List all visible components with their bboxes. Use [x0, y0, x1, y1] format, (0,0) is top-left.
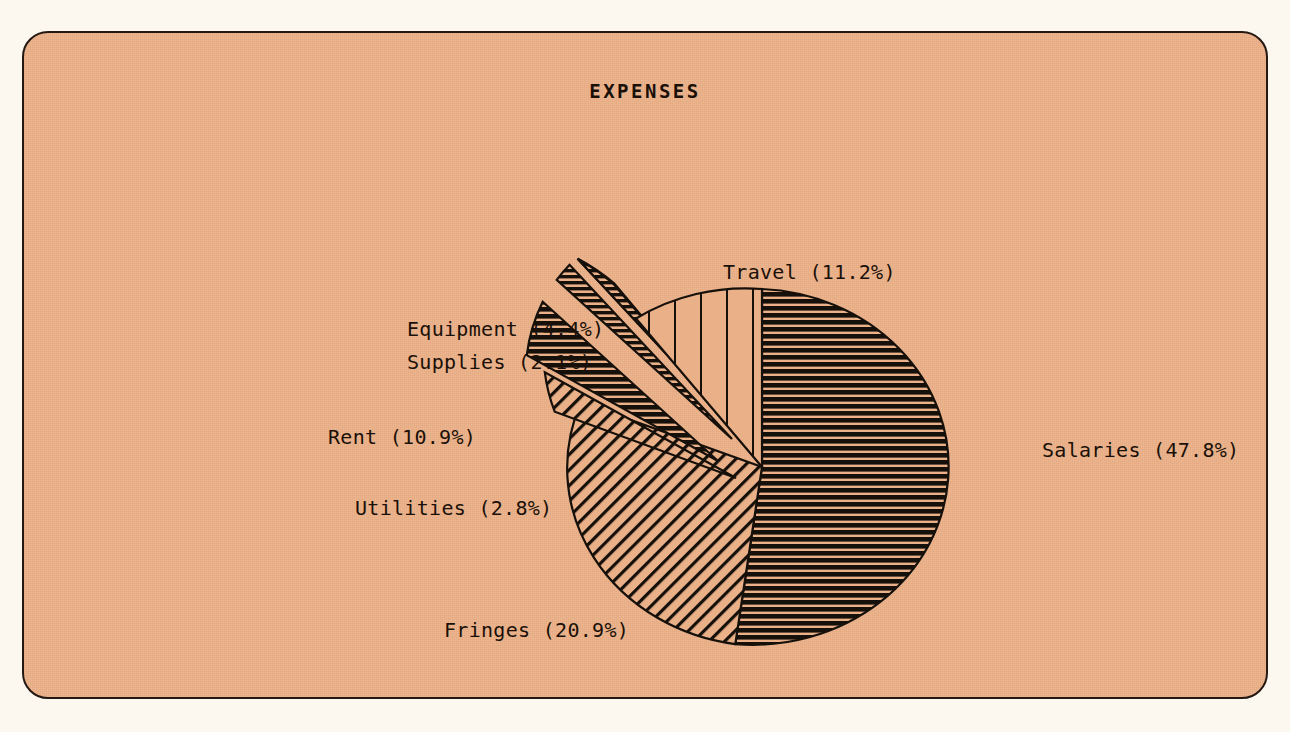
chart-page: EXPENSES: [0, 0, 1290, 732]
pie-label-rent: Rent (10.9%): [328, 425, 476, 449]
pie-label-travel: Travel (11.2%): [723, 260, 896, 284]
pie-chart: [24, 33, 1268, 699]
pie-label-fringes: Fringes (20.9%): [444, 618, 629, 642]
pie-label-supplies: Supplies (2.1%): [407, 350, 592, 374]
pie-label-utilities: Utilities (2.8%): [355, 496, 552, 520]
pie-slice-salaries[interactable]: [735, 289, 948, 645]
pie-label-salaries: Salaries (47.8%): [1042, 438, 1239, 462]
pie-label-equipment: Equipment (4.4%): [407, 317, 604, 341]
chart-frame: EXPENSES: [22, 31, 1268, 699]
